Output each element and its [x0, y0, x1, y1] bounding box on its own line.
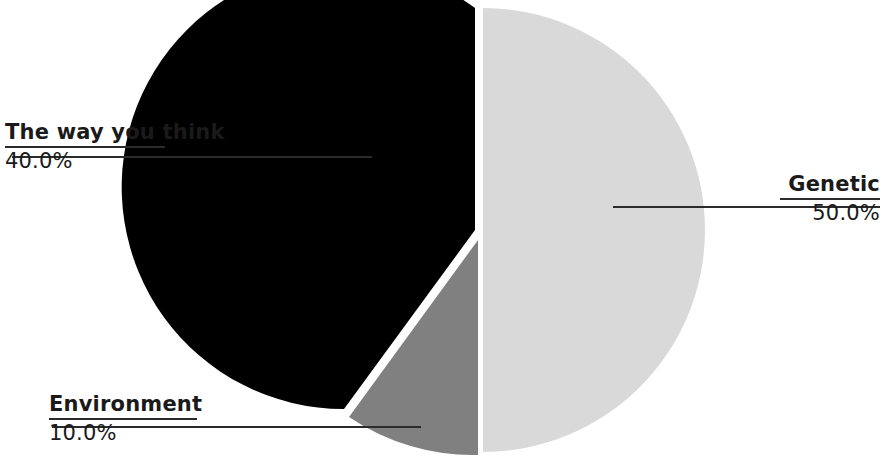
callout-genetic: Genetic 50.0% [780, 172, 880, 225]
callout-environment: Environment 10.0% [49, 392, 202, 445]
pie-slice-genetic[interactable] [483, 8, 705, 452]
callout-genetic-value: 50.0% [780, 201, 880, 225]
callout-the-way-you-think-value: 40.0% [5, 149, 225, 173]
callout-the-way-you-think: The way you think 40.0% [5, 120, 225, 173]
callout-the-way-you-think-rule [5, 146, 165, 148]
callout-genetic-rule [780, 198, 880, 200]
callout-environment-rule [49, 418, 197, 420]
callout-environment-value: 10.0% [49, 421, 202, 445]
callout-genetic-title: Genetic [780, 172, 880, 196]
callout-the-way-you-think-title: The way you think [5, 120, 225, 144]
pie-chart: The way you think 40.0% Environment 10.0… [0, 0, 887, 464]
callout-environment-title: Environment [49, 392, 202, 416]
